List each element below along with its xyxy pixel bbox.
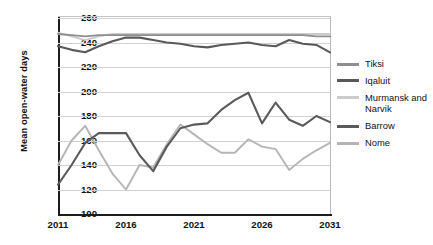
legend-item-label: Iqaluit [365, 75, 390, 86]
legend-item-label: Barrow [365, 120, 395, 131]
x-tick-label: 2031 [300, 219, 360, 230]
legend-swatch-icon [337, 79, 359, 82]
plot-right-edge [330, 16, 331, 214]
legend-item-label: Nome [365, 137, 390, 148]
legend-swatch-icon [337, 142, 359, 145]
legend-swatch-icon [337, 96, 359, 99]
legend-item[interactable]: Iqaluit [337, 75, 433, 86]
legend-item[interactable]: Tiksi [337, 58, 433, 69]
series-lines [58, 18, 330, 214]
x-tick-label: 2016 [96, 219, 156, 230]
x-tick-label: 2021 [164, 219, 224, 230]
x-tick-label: 2026 [232, 219, 292, 230]
legend-item[interactable]: Murmansk and Narvik [337, 92, 433, 115]
plot-top-edge [58, 16, 331, 17]
legend-item[interactable]: Nome [337, 137, 433, 148]
x-tick-label: 2011 [28, 219, 88, 230]
series-line [58, 34, 330, 36]
series-line [58, 38, 330, 53]
series-line [58, 33, 330, 40]
chart-legend: TiksiIqaluitMurmansk and NarvikBarrowNom… [337, 58, 433, 154]
legend-item-label: Tiksi [365, 58, 384, 69]
legend-item[interactable]: Barrow [337, 120, 433, 131]
legend-swatch-icon [337, 63, 359, 66]
legend-item-label: Murmansk and Narvik [365, 92, 433, 115]
x-axis-line [58, 214, 332, 216]
plot-area [58, 18, 330, 214]
legend-swatch-icon [337, 125, 359, 128]
y-axis-title: Mean open-water days [19, 21, 29, 181]
chart-container: Mean open-water days 1001201401601802002… [0, 0, 433, 245]
